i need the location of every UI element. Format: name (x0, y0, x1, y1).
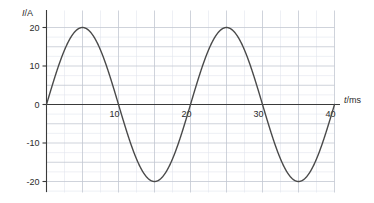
current-vs-time-line-chart: 20100-10-20 10203040 I/A t/ms (0, 0, 374, 203)
x-axis-tick-label: 10 (110, 109, 120, 119)
x-axis-label: t/ms (344, 95, 362, 105)
y-axis-label: I/A (22, 8, 33, 18)
x-axis-tick-label: 30 (254, 109, 264, 119)
y-axis-tick-label: 10 (29, 61, 39, 71)
y-axis-tick-label: 0 (34, 100, 39, 110)
chart-container: 20100-10-20 10203040 I/A t/ms (0, 0, 374, 203)
y-axis-tick-label: -10 (26, 138, 39, 148)
chart-background (0, 0, 374, 203)
y-axis-tick-label: 20 (29, 23, 39, 33)
y-axis-tick-label: -20 (26, 177, 39, 187)
